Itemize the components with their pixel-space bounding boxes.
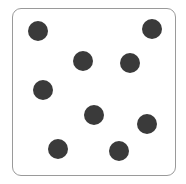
dot (137, 114, 157, 134)
dot (84, 105, 104, 125)
dot (109, 141, 129, 161)
dot (120, 53, 140, 73)
dot (33, 80, 53, 100)
dot (28, 21, 48, 41)
dot (142, 19, 162, 39)
dot (73, 51, 93, 71)
dot (48, 139, 68, 159)
